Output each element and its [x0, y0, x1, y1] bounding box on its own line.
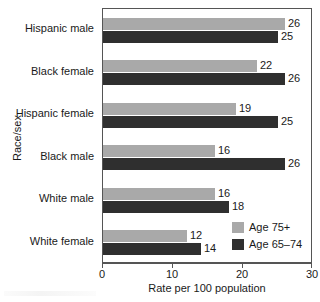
category-label: Black female [0, 66, 94, 77]
bar-age-65-74 [103, 116, 278, 128]
x-axis: 0102030 [102, 263, 312, 281]
x-axis-tick-label: 0 [90, 269, 114, 280]
bar-age-65-74 [103, 158, 285, 170]
bar-value-label: 16 [218, 144, 230, 156]
bar-group: 1925 [103, 103, 311, 128]
bar-age-65-74 [103, 243, 201, 255]
category-label: Hispanic female [0, 108, 94, 119]
bar-age-75-plus [103, 103, 236, 115]
bar-value-label: 18 [232, 200, 244, 212]
bar-chart: Race/sex Hispanic maleBlack femaleHispan… [0, 0, 320, 302]
bar-age-65-74 [103, 73, 285, 85]
bar-value-label: 26 [288, 17, 300, 29]
category-label: Hispanic male [0, 23, 94, 34]
bar-value-label: 26 [288, 72, 300, 84]
scan-artifact [4, 291, 96, 296]
bar-value-label: 19 [239, 102, 251, 114]
legend-label: Age 75+ [249, 222, 290, 233]
legend-label: Age 65–74 [249, 239, 302, 250]
bar-group: 1618 [103, 188, 311, 213]
bar-group: 1626 [103, 145, 311, 170]
bar-age-75-plus [103, 60, 257, 72]
bar-value-label: 14 [204, 242, 216, 254]
bar-value-label: 22 [260, 59, 272, 71]
category-axis-labels: Hispanic maleBlack femaleHispanic female… [0, 8, 98, 263]
bar-age-65-74 [103, 31, 278, 43]
x-axis-tick-label: 30 [300, 269, 320, 280]
bar-age-75-plus [103, 18, 285, 30]
bar-value-label: 25 [281, 30, 293, 42]
legend-item: Age 65–74 [232, 237, 310, 252]
legend: Age 75+Age 65–74 [232, 220, 310, 254]
bar-age-75-plus [103, 145, 215, 157]
x-axis-title: Rate per 100 population [102, 282, 312, 294]
bar-age-65-74 [103, 201, 229, 213]
legend-swatch-age-75-plus [232, 222, 244, 233]
bar-value-label: 16 [218, 187, 230, 199]
x-axis-tick-label: 10 [160, 269, 184, 280]
bar-value-label: 12 [190, 229, 202, 241]
legend-item: Age 75+ [232, 220, 310, 235]
x-axis-tick-label: 20 [230, 269, 254, 280]
category-label: Black male [0, 151, 94, 162]
x-axis-line [102, 263, 312, 264]
bar-value-label: 26 [288, 157, 300, 169]
category-label: White female [0, 236, 94, 247]
bar-group: 2625 [103, 18, 311, 43]
bar-value-label: 25 [281, 115, 293, 127]
category-label: White male [0, 193, 94, 204]
bar-age-75-plus [103, 230, 187, 242]
bar-age-75-plus [103, 188, 215, 200]
bar-group: 2226 [103, 60, 311, 85]
legend-swatch-age-65-74 [232, 239, 244, 250]
